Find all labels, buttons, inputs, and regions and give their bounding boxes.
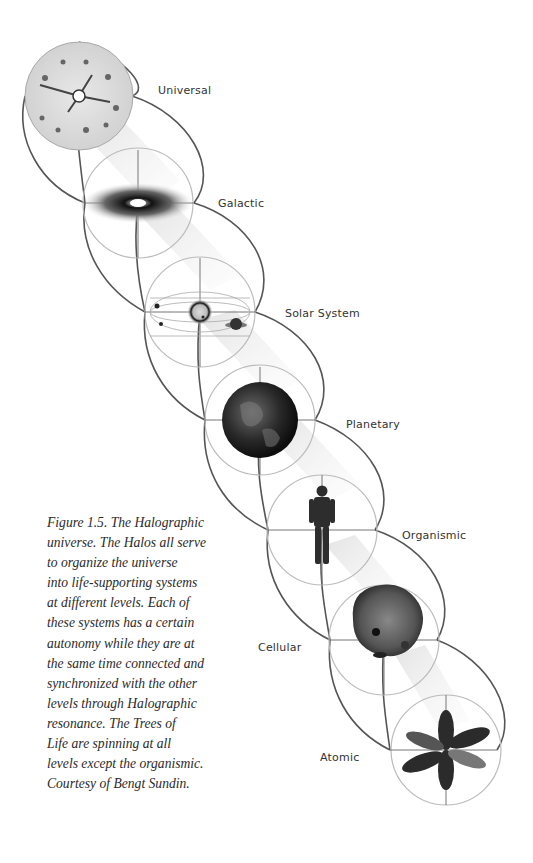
caption-line: universe. The Halos all serve [47,533,222,553]
caption-line: into life-supporting systems [47,573,222,593]
level-label-organismic: Organismic [402,529,466,542]
caption-line: resonance. The Trees of [47,714,222,734]
level-label-atomic: Atomic [320,751,359,764]
cell-illustration [353,585,423,659]
level-label-universal: Universal [158,84,211,97]
earth-illustration [222,382,298,458]
caption-line: to organize the universe [47,553,222,573]
caption-line: Figure 1.5. The Halographic [47,513,222,533]
level-label-solar-system: Solar System [285,307,360,320]
caption-line: these systems has a certain [47,613,222,633]
galaxy-illustration [83,183,193,223]
level-label-galactic: Galactic [218,197,264,210]
level-label-planetary: Planetary [346,418,400,431]
caption-line: autonomy while they are at [47,634,222,654]
caption-line: levels through Halographic [47,694,222,714]
caption-line: synchronized with the other [47,674,222,694]
caption-line: the same time connected and [47,654,222,674]
caption-line: levels except the organismic. [47,754,222,774]
universe-illustration [25,42,133,150]
figure-caption: Figure 1.5. The Halographic universe. Th… [47,513,222,794]
caption-line: Courtesy of Bengt Sundin. [47,774,222,794]
caption-line: Life are spinning at all [47,734,222,754]
caption-line: at different levels. Each of [47,593,222,613]
level-label-cellular: Cellular [258,641,301,654]
